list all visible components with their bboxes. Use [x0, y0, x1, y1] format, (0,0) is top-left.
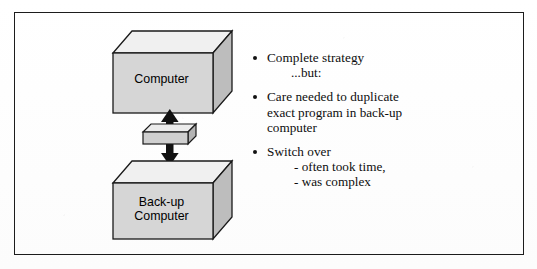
bullet-item-2-line-2: exact program in back-up: [250, 105, 465, 120]
bullet-item-2-text: Care needed to duplicate: [267, 89, 399, 104]
bullet-list: Complete strategy ...but: Care needed to…: [250, 50, 465, 199]
bullet-dot-icon: [253, 95, 257, 99]
bullet-item-3-text: Switch over: [267, 144, 331, 159]
bullet-item-1-subnote: ...but:: [250, 65, 465, 80]
bullet-item-2-line-1: Care needed to duplicate: [250, 89, 465, 104]
computer-box-top-face: [113, 31, 232, 53]
backup-computer-box: [108, 155, 238, 245]
backup-computer-box-top-face: [113, 161, 232, 183]
bullet-item-3-subitem-2: - was complex: [250, 174, 465, 189]
bullet-item-3: Switch over - often took time, - was com…: [250, 144, 465, 190]
figure-page: Computer: [0, 0, 537, 269]
bullet-item-1: Complete strategy ...but:: [250, 50, 465, 80]
backup-computer-box-front-face: [113, 183, 213, 239]
bullet-item-1-text: Complete strategy: [267, 50, 364, 65]
bullet-dot-icon: [253, 56, 257, 60]
bullet-item-1-line-1: Complete strategy: [250, 50, 465, 65]
bullet-dot-icon: [253, 150, 257, 154]
bullet-item-2-line-3: computer: [250, 120, 465, 135]
bullet-item-3-line-1: Switch over: [250, 144, 465, 159]
computer-box: [108, 26, 238, 118]
computer-box-front-face: [113, 53, 213, 113]
switch-block-icon: [143, 124, 196, 144]
bullet-item-3-subitem-1: - often took time,: [250, 159, 465, 174]
bullet-item-2: Care needed to duplicate exact program i…: [250, 89, 465, 135]
